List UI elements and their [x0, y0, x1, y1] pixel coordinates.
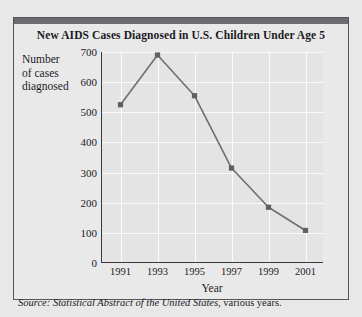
source-suffix: , various years. — [218, 297, 282, 308]
series-plot — [102, 52, 324, 263]
y-axis-tick-label: 0 — [92, 257, 98, 269]
y-axis-tick-label: 300 — [81, 167, 98, 179]
data-point-marker — [266, 205, 271, 210]
y-axis-tick-label: 500 — [81, 106, 98, 118]
plot-wrapper: 0100200300400500600700 19911993199519971… — [101, 52, 323, 263]
y-axis-tick-label: 100 — [81, 227, 98, 239]
chart-title: New AIDS Cases Diagnosed in U.S. Childre… — [14, 29, 348, 41]
plot-area: 0100200300400500600700 19911993199519971… — [101, 52, 323, 263]
x-axis-tick-label: 1997 — [221, 266, 242, 277]
x-axis-tick-label: 1993 — [147, 266, 168, 277]
data-point-marker — [155, 52, 160, 57]
x-axis-title: Year — [101, 282, 323, 294]
figure-container: New AIDS Cases Diagnosed in U.S. Childre… — [13, 17, 349, 300]
source-label: Source: — [18, 297, 50, 308]
y-axis-tick-label: 700 — [81, 46, 98, 58]
series-line — [121, 55, 306, 230]
source-publication: Statistical Abstract of the United State… — [53, 297, 218, 308]
data-point-marker — [118, 102, 123, 107]
source-note: Source: Statistical Abstract of the Unit… — [18, 297, 282, 308]
y-axis-tick-label: 400 — [81, 136, 98, 148]
x-axis-tick-label: 1991 — [110, 266, 131, 277]
data-point-marker — [192, 93, 197, 98]
y-axis-tick-label: 600 — [81, 76, 98, 88]
data-point-marker — [303, 228, 308, 233]
data-point-marker — [229, 165, 234, 170]
x-axis-tick-label: 1999 — [258, 266, 279, 277]
x-axis-tick-label: 2001 — [295, 266, 316, 277]
y-axis-tick-label: 200 — [81, 197, 98, 209]
x-axis-tick-label: 1995 — [184, 266, 205, 277]
figure-top-rule — [14, 18, 348, 24]
